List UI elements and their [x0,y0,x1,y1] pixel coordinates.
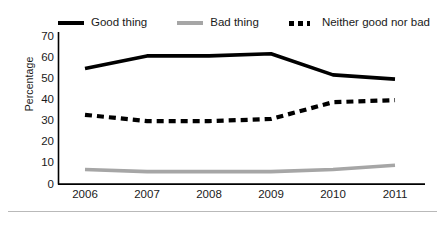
plot-area [0,0,445,226]
series-line-good-thing [85,54,395,79]
series-line-neither-good-nor-bad [85,100,395,121]
series-line-bad-thing [85,165,395,171]
bottom-divider [8,211,437,212]
chart-figure: Good thing Bad thing Neither good nor ba… [0,0,445,226]
